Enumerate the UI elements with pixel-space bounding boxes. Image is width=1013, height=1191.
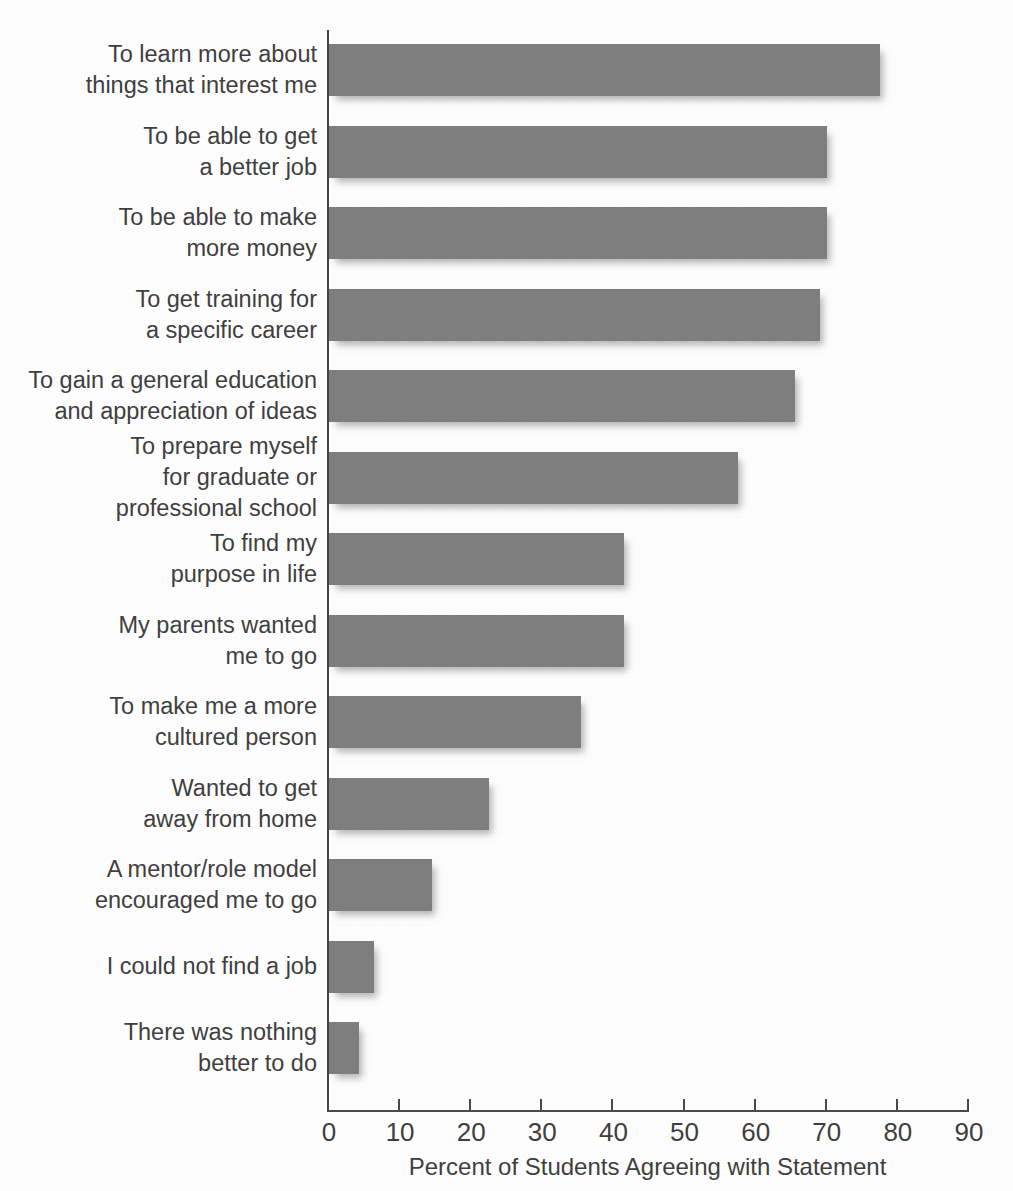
x-tick-label: 70 <box>797 1117 857 1148</box>
bar <box>329 859 432 911</box>
bar <box>329 370 795 422</box>
x-tick-mark <box>825 1099 827 1112</box>
bar <box>329 696 581 748</box>
x-tick-label: 80 <box>868 1117 928 1148</box>
x-tick-label: 30 <box>512 1117 572 1148</box>
x-tick-mark <box>754 1099 756 1112</box>
bar-chart: To learn more about things that interest… <box>0 0 1013 1191</box>
x-tick-mark <box>327 1099 329 1112</box>
category-label: To make me a more cultured person <box>0 691 317 753</box>
category-label: I could not find a job <box>0 951 317 982</box>
x-tick-mark <box>683 1099 685 1112</box>
category-label: There was nothing better to do <box>0 1017 317 1079</box>
x-tick-label: 20 <box>441 1117 501 1148</box>
bar <box>329 44 880 96</box>
category-label: To get training for a specific career <box>0 284 317 346</box>
x-tick-mark <box>469 1099 471 1112</box>
x-tick-label: 50 <box>655 1117 715 1148</box>
category-label: To find my purpose in life <box>0 528 317 590</box>
bar <box>329 1022 359 1074</box>
bar <box>329 533 624 585</box>
x-axis-line <box>327 1110 968 1112</box>
x-tick-mark <box>398 1099 400 1112</box>
x-tick-label: 40 <box>583 1117 643 1148</box>
bar <box>329 778 489 830</box>
x-tick-mark <box>967 1099 969 1112</box>
chart-title <box>0 0 1013 1</box>
bar <box>329 452 738 504</box>
bar <box>329 941 374 993</box>
bar <box>329 126 827 178</box>
category-label: To gain a general education and apprecia… <box>0 365 317 427</box>
category-label: To prepare myself for graduate or profes… <box>0 431 317 524</box>
x-tick-mark <box>540 1099 542 1112</box>
category-label: My parents wanted me to go <box>0 610 317 672</box>
x-tick-label: 60 <box>726 1117 786 1148</box>
category-label: Wanted to get away from home <box>0 773 317 835</box>
x-tick-label: 0 <box>299 1117 359 1148</box>
bar <box>329 207 827 259</box>
x-tick-label: 90 <box>939 1117 999 1148</box>
category-label: To be able to get a better job <box>0 121 317 183</box>
x-tick-mark <box>611 1099 613 1112</box>
category-label: To be able to make more money <box>0 202 317 264</box>
x-tick-label: 10 <box>370 1117 430 1148</box>
bar <box>329 289 820 341</box>
category-label: To learn more about things that interest… <box>0 39 317 101</box>
bar <box>329 615 624 667</box>
category-label: A mentor/role model encouraged me to go <box>0 854 317 916</box>
x-axis-label: Percent of Students Agreeing with Statem… <box>327 1153 968 1181</box>
x-tick-mark <box>896 1099 898 1112</box>
